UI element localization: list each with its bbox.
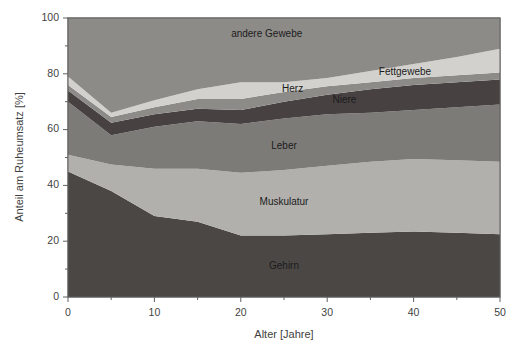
band-label-muskulatur: Muskulatur <box>260 196 310 207</box>
x-tick-label: 10 <box>149 306 161 318</box>
band-label-gehirn: Gehirn <box>269 260 299 271</box>
y-tick-label: 60 <box>47 122 59 134</box>
stacked-area-chart: 01020304050 020406080100 GehirnMuskulatu… <box>0 0 523 352</box>
x-tick-label: 50 <box>494 306 506 318</box>
band-label-fettgewebe: Fettgewebe <box>379 66 432 77</box>
band-label-leber: Leber <box>271 140 297 151</box>
y-tick-label: 80 <box>47 67 59 79</box>
band-label-herz: Herz <box>282 83 303 94</box>
x-tick-label: 30 <box>321 306 333 318</box>
y-tick-label: 40 <box>47 178 59 190</box>
x-axis-title: Alter [Jahre] <box>254 328 313 340</box>
band-label-niere: Niere <box>333 94 357 105</box>
x-tick-label: 0 <box>65 306 71 318</box>
area-bands <box>68 18 500 297</box>
y-tick-label: 20 <box>47 234 59 246</box>
y-axis-title: Anteil am Ruheumsatz [%] <box>13 92 25 222</box>
y-tick-label: 0 <box>53 290 59 302</box>
x-tick-label: 20 <box>235 306 247 318</box>
x-tick-label: 40 <box>408 306 420 318</box>
band-label-andere-gewebe: andere Gewebe <box>231 28 303 39</box>
y-tick-label: 100 <box>41 11 59 23</box>
